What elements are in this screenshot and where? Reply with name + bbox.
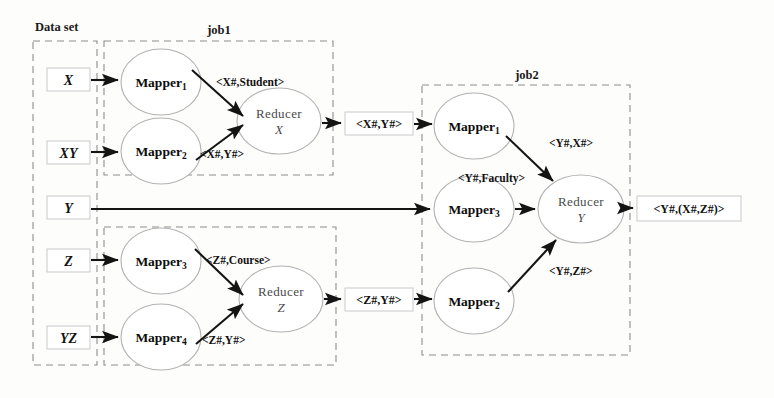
job1-output-xy-label: <X#,Y#> (356, 117, 402, 131)
job1-reducer-z-sublabel: Z (277, 300, 285, 315)
dataset-box-x-label: X (63, 73, 74, 88)
job1-edge-course-label: <Z#,Course> (206, 254, 271, 266)
job1-group-label: job1 (206, 23, 231, 37)
dataset-box-y-label: Y (64, 201, 74, 216)
job2-reducer-y-node[interactable] (538, 175, 624, 243)
job1-reducer-x-label: Reducer (256, 106, 302, 121)
diagram-canvas: Data set job1 job2 X XY Y Z YZ Mapper1 M… (0, 0, 774, 398)
job1-edge-zy-label: <Z#,Y#> (202, 334, 245, 346)
job1-output-zy-label: <Z#,Y#> (356, 293, 402, 307)
job1-reducer-x-node[interactable] (237, 88, 321, 154)
job2-edge-faculty-label: <Y#,Faculty> (458, 172, 525, 185)
job1-mapper4-label: Mapper4 (135, 330, 187, 347)
job2-edge-yz-label: <Y#,Z#> (549, 265, 592, 277)
mapreduce-dataflow-figure: Data set job1 job2 X XY Y Z YZ Mapper1 M… (0, 0, 774, 398)
job2-output-final-label: <Y#,(X#,Z#)> (653, 202, 724, 216)
dataset-group-label: Data set (35, 20, 79, 34)
job1-reducer-z-label: Reducer (258, 284, 304, 299)
job1-reducer-x-sublabel: X (274, 122, 284, 137)
job2-mapper2-label: Mapper2 (448, 294, 500, 311)
job1-reducer-z-node[interactable] (239, 266, 323, 332)
job2-edge-yx-label: <Y#,X#> (549, 137, 593, 149)
job2-mapper3-label: Mapper3 (448, 202, 500, 219)
dataset-box-z-label: Z (63, 254, 73, 269)
job1-mapper1-label: Mapper1 (135, 75, 187, 92)
job2-reducer-y-label: Reducer (558, 194, 604, 209)
dataset-box-xy-label: XY (59, 146, 79, 161)
job1-mapper2-label: Mapper2 (135, 144, 187, 161)
job2-group-label: job2 (514, 68, 539, 82)
dataset-box-yz-label: YZ (60, 331, 78, 346)
job1-edge-xy-label: <X#,Y#> (200, 148, 244, 160)
job1-edge-student-label: <X#,Student> (216, 76, 284, 88)
job2-mapper1-label: Mapper1 (448, 119, 500, 136)
job1-mapper3-label: Mapper3 (135, 254, 187, 271)
